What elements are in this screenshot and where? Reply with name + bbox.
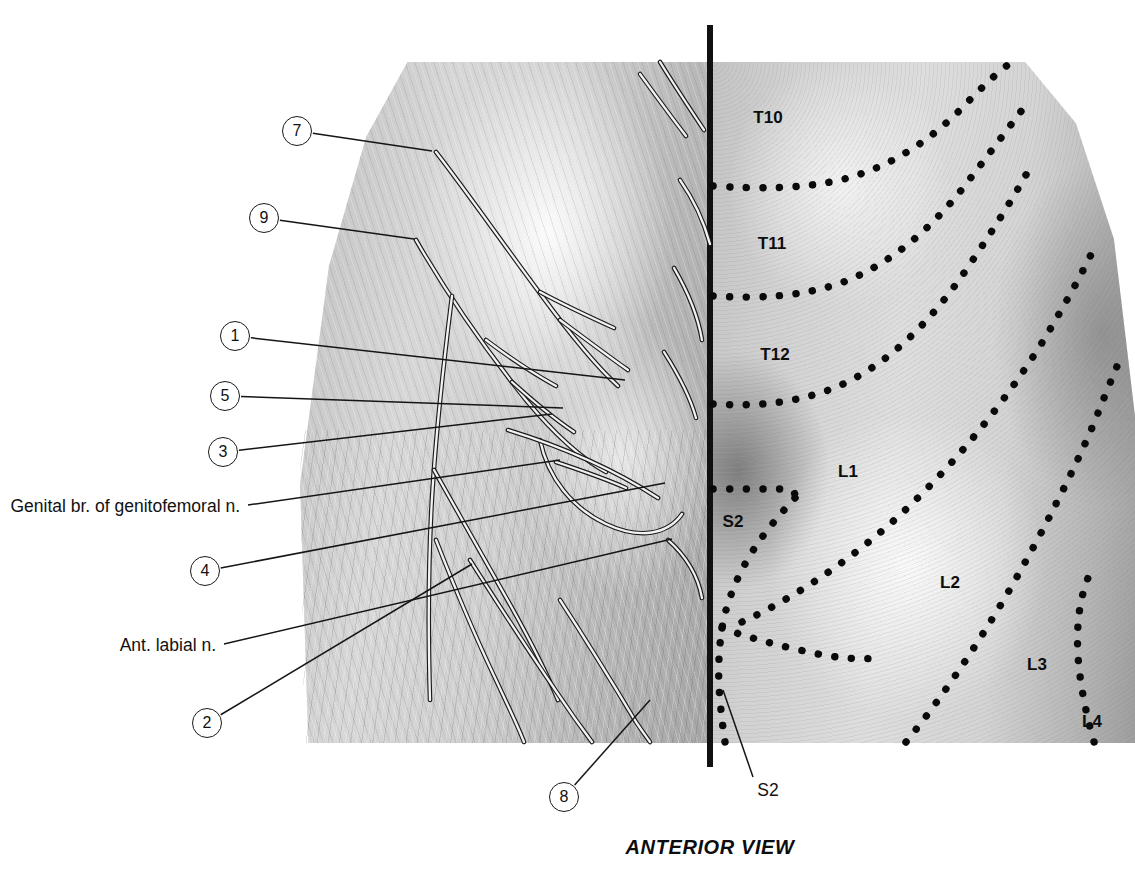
s2-lateral-border <box>719 498 795 742</box>
superficial-ring-arc <box>540 440 682 533</box>
callout-bubble-7[interactable]: 7 <box>282 116 312 146</box>
dermatome-label-s2: S2 <box>723 512 744 532</box>
t12-l1-border <box>713 164 1032 405</box>
ant-labial-branch <box>668 540 702 598</box>
ant-labial-branch-outline <box>668 540 702 598</box>
dermatome-label-l4: L4 <box>1082 712 1102 732</box>
callout-bubble-4[interactable]: 4 <box>190 556 220 586</box>
leader-line-9 <box>280 220 414 239</box>
leader-line-1 <box>251 338 625 380</box>
dermatome-label-t12: T12 <box>760 345 789 365</box>
leader-line-3 <box>239 414 552 450</box>
leader-line-5 <box>241 397 563 408</box>
leader-lines <box>221 133 753 785</box>
view-caption: ANTERIOR VIEW <box>626 836 795 859</box>
anterior-view-figure: T10T11T12L1S2L2L3L4 79153428 Genital br.… <box>0 0 1135 880</box>
callout-bubble-8[interactable]: 8 <box>549 782 579 812</box>
callout-bubble-3[interactable]: 3 <box>208 437 238 467</box>
nerve-text-label-1: Ant. labial n. <box>120 637 216 655</box>
s2-upper-border <box>713 489 795 498</box>
t11-t12-border <box>713 110 1022 297</box>
lateral-fan-1-outline <box>680 180 710 244</box>
dermatome-label-l2: L2 <box>940 573 960 593</box>
callout-bubble-9[interactable]: 9 <box>249 203 279 233</box>
nerve-network <box>416 62 710 742</box>
upper-fan-2 <box>660 62 704 130</box>
s2-lower-border <box>722 628 878 659</box>
leader-line-8 <box>575 700 650 785</box>
callout-bubble-1[interactable]: 1 <box>220 321 250 351</box>
nerve-text-label-0: Genital br. of genitofemoral n. <box>10 498 240 516</box>
leader-line-s2 <box>723 690 753 777</box>
dermatome-label-t10: T10 <box>753 108 782 128</box>
figure-overlay <box>0 0 1135 880</box>
l1-l2-border <box>742 244 1096 622</box>
leader-line-2 <box>221 564 472 715</box>
dermatome-label-l1: L1 <box>838 462 858 482</box>
femoral-branch-4 <box>560 600 650 742</box>
upper-fan-1 <box>640 74 686 136</box>
callout-bubble-2[interactable]: 2 <box>192 708 222 738</box>
callout-bubble-5[interactable]: 5 <box>210 381 240 411</box>
s2-leader-label: S2 <box>757 780 778 801</box>
l2-l3-border <box>906 364 1118 742</box>
dermatome-label-t11: T11 <box>758 234 786 254</box>
lateral-fan-2-outline <box>674 268 702 340</box>
leader-line-7 <box>313 133 432 151</box>
dermatome-boundaries <box>713 62 1118 742</box>
leader-line-text-0 <box>248 460 560 505</box>
dermatome-label-l3: L3 <box>1027 655 1047 675</box>
iliohypogastric-main <box>436 152 618 386</box>
